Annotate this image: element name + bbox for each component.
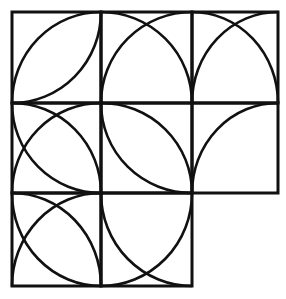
grid-lines — [12, 12, 278, 286]
quarter-circle-arcs — [12, 12, 278, 286]
tile-pattern-diagram — [0, 0, 286, 299]
quarter-arc — [192, 103, 278, 193]
